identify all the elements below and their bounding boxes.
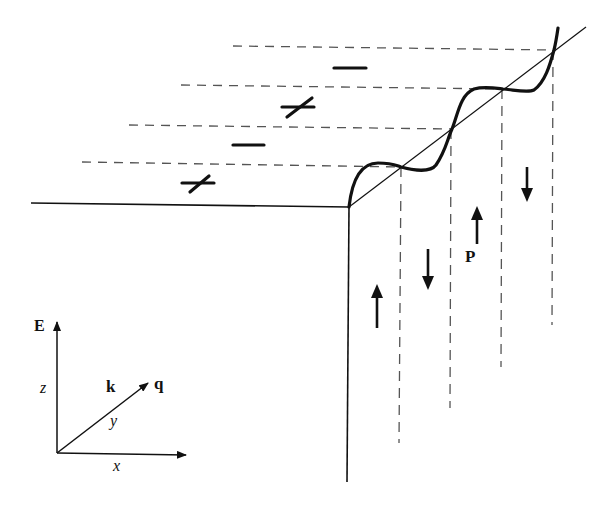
- domain-boundary-3: [501, 89, 502, 367]
- dashed-vertical-lines: [399, 50, 553, 443]
- plus-charge-1: [182, 176, 214, 192]
- coordinate-axes: [57, 322, 186, 455]
- dashed-line-4: [82, 162, 401, 167]
- polarization-arrows: [371, 167, 533, 328]
- arrow-up-2: [471, 206, 483, 244]
- dashed-horizontal-lines: [82, 46, 554, 167]
- arrow-up-1: [371, 284, 383, 328]
- y-axis-arrow: [57, 383, 148, 453]
- dashed-line-1: [233, 46, 554, 50]
- domain-boundary-1: [399, 167, 401, 443]
- diagram-canvas: [0, 0, 605, 506]
- crystal-edges: [31, 203, 349, 482]
- axis-y-label: y: [110, 413, 117, 429]
- arrow-down-2: [521, 167, 533, 202]
- axis-x-label: x: [113, 458, 120, 474]
- vertical-edge: [347, 207, 349, 482]
- axis-z-label: z: [40, 380, 46, 396]
- q-label: q: [154, 375, 163, 392]
- plus-charge-2: [282, 98, 314, 117]
- diagonal-line: [349, 27, 586, 207]
- dashed-line-3: [129, 125, 452, 129]
- top-front-edge: [31, 203, 349, 207]
- dashed-line-2: [181, 85, 503, 89]
- domain-boundary-4: [552, 50, 553, 325]
- surface-charges: [182, 68, 366, 192]
- polarization-label: P: [465, 248, 475, 265]
- arrow-down-1: [422, 249, 434, 290]
- field-label: E: [34, 318, 45, 334]
- k-label: k: [106, 378, 115, 395]
- x-axis-arrow: [57, 453, 186, 455]
- domain-boundary-2: [450, 129, 451, 408]
